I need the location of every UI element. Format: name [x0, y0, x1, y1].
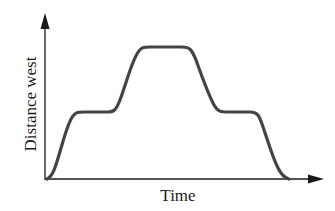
y-axis-label: Distance west — [21, 56, 40, 151]
distance-time-chart: Distance west Time — [0, 0, 335, 211]
y-axis-arrow-icon — [41, 13, 50, 29]
x-axis-label: Time — [160, 186, 195, 205]
x-axis-arrow-icon — [308, 175, 324, 184]
y-axis — [41, 13, 50, 180]
distance-curve — [47, 47, 289, 179]
